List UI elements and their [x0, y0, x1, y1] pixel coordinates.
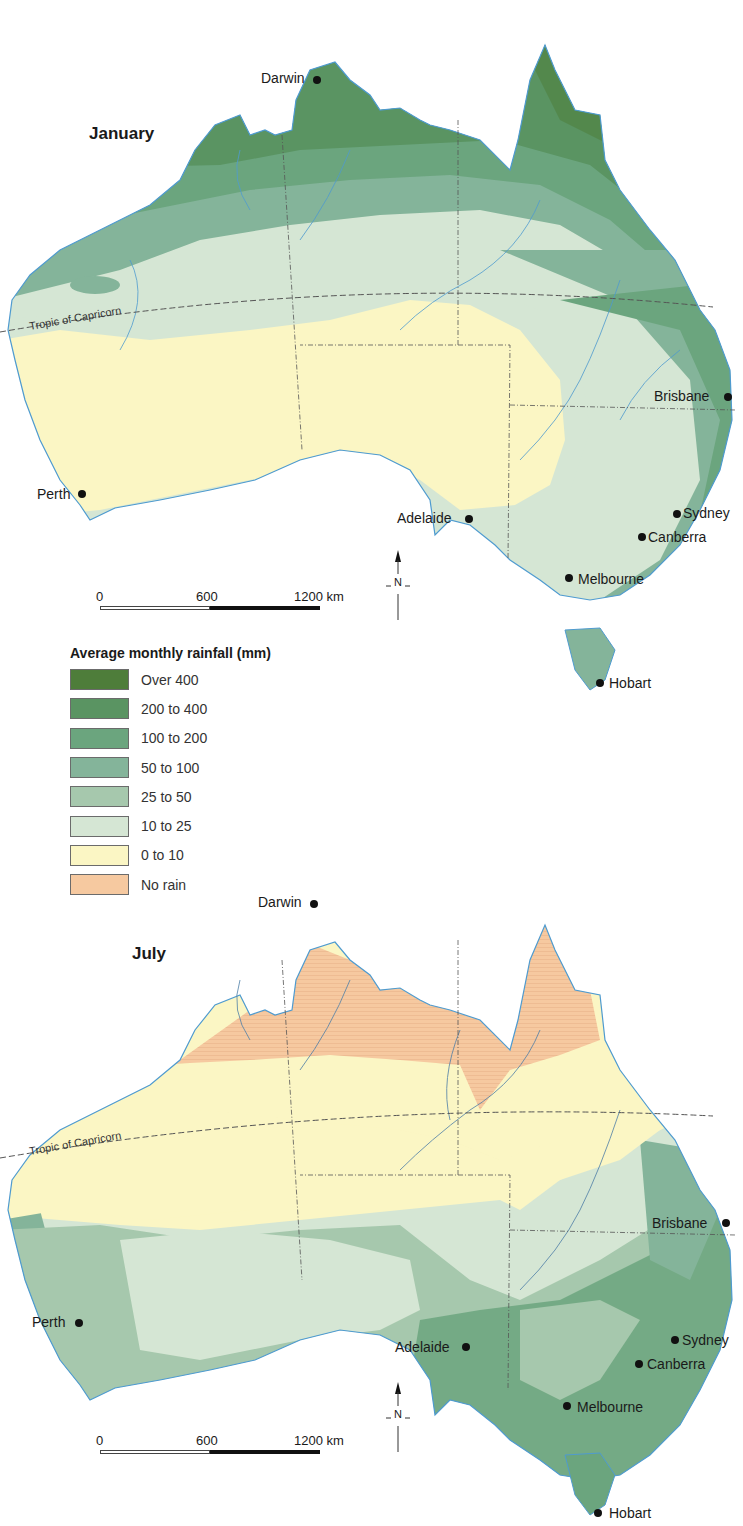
city-darwin: Darwin — [258, 894, 302, 910]
legend-item: 200 to 400 — [70, 694, 330, 723]
city-darwin: Darwin — [261, 70, 305, 86]
city-brisbane: Brisbane — [652, 1215, 707, 1231]
legend-item: 50 to 100 — [70, 753, 330, 782]
city-hobart: Hobart — [609, 675, 651, 691]
july-map: Tropic of Capricorn July Darwin Brisbane… — [0, 880, 743, 1526]
city-dot — [722, 1219, 730, 1227]
north-label: N — [383, 1408, 413, 1420]
city-dot — [673, 510, 681, 518]
scale-mid: 600 — [196, 1433, 218, 1448]
legend-swatch — [70, 786, 129, 807]
legend-item: Over 400 — [70, 665, 330, 694]
city-canberra: Canberra — [647, 1356, 705, 1372]
july-map-graphic: Tropic of Capricorn — [0, 880, 743, 1526]
legend-item: 25 to 50 — [70, 782, 330, 811]
city-adelaide: Adelaide — [395, 1339, 450, 1355]
city-dot — [465, 515, 473, 523]
legend: Average monthly rainfall (mm) Over 40020… — [70, 645, 330, 899]
scale-mid: 600 — [196, 589, 218, 604]
january-map: Tropic of Capricorn January Darwin Brisb… — [0, 0, 743, 700]
city-sydney: Sydney — [683, 505, 730, 521]
city-dot — [75, 1319, 83, 1327]
legend-swatch — [70, 757, 129, 778]
scale-bar: 0 600 1200 km — [98, 589, 348, 614]
city-hobart: Hobart — [609, 1505, 651, 1521]
legend-label: 50 to 100 — [141, 760, 199, 776]
city-dot — [310, 900, 318, 908]
scale-bar: 0 600 1200 km — [98, 1433, 348, 1458]
city-dot — [596, 679, 604, 687]
city-melbourne: Melbourne — [578, 571, 644, 587]
scale-start: 0 — [96, 1433, 103, 1448]
map-title: July — [132, 944, 166, 964]
map-title: January — [89, 124, 154, 144]
legend-item: 10 to 25 — [70, 811, 330, 840]
legend-label: 10 to 25 — [141, 818, 192, 834]
legend-swatch — [70, 845, 129, 866]
scale-end: 1200 km — [294, 589, 344, 604]
city-sydney: Sydney — [682, 1332, 729, 1348]
city-perth: Perth — [37, 486, 70, 502]
legend-swatch — [70, 816, 129, 837]
legend-title: Average monthly rainfall (mm) — [70, 645, 330, 661]
legend-swatch — [70, 698, 129, 719]
north-arrow: N — [383, 550, 413, 620]
scale-start: 0 — [96, 589, 103, 604]
legend-label: 200 to 400 — [141, 701, 207, 717]
scale-end: 1200 km — [294, 1433, 344, 1448]
legend-item: 0 to 10 — [70, 841, 330, 870]
city-dot — [638, 533, 646, 541]
city-dot — [671, 1336, 679, 1344]
legend-label: 0 to 10 — [141, 847, 184, 863]
city-dot — [594, 1509, 602, 1517]
city-dot — [462, 1343, 470, 1351]
legend-item: 100 to 200 — [70, 724, 330, 753]
legend-label: Over 400 — [141, 672, 199, 688]
city-dot — [313, 76, 321, 84]
city-adelaide: Adelaide — [397, 510, 452, 526]
city-dot — [565, 574, 573, 582]
city-canberra: Canberra — [648, 529, 706, 545]
legend-label: 25 to 50 — [141, 789, 192, 805]
city-dot — [724, 393, 732, 401]
city-perth: Perth — [32, 1314, 65, 1330]
city-brisbane: Brisbane — [654, 388, 709, 404]
legend-swatch — [70, 669, 129, 690]
legend-label: 100 to 200 — [141, 730, 207, 746]
north-label: N — [383, 576, 413, 588]
city-melbourne: Melbourne — [577, 1399, 643, 1415]
city-dot — [78, 490, 86, 498]
city-dot — [635, 1360, 643, 1368]
legend-swatch — [70, 728, 129, 749]
city-dot — [563, 1402, 571, 1410]
north-arrow: N — [383, 1382, 413, 1452]
